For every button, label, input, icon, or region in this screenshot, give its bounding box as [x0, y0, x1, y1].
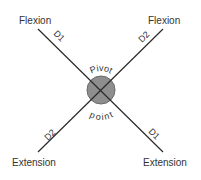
- label-point: point: [88, 109, 115, 122]
- label-extension-right: Extension: [143, 157, 187, 168]
- pnf-diagonal-diagram: Flexion Flexion Extension Extension D1 D…: [0, 0, 201, 180]
- label-extension-left: Extension: [12, 157, 56, 168]
- label-d2-lower: D2: [42, 127, 57, 142]
- label-flexion-right: Flexion: [148, 15, 180, 26]
- label-d1-lower: D1: [147, 126, 162, 141]
- label-d1-upper: D1: [52, 28, 67, 43]
- label-pivot: Pivot: [88, 63, 114, 76]
- label-flexion-left: Flexion: [19, 15, 51, 26]
